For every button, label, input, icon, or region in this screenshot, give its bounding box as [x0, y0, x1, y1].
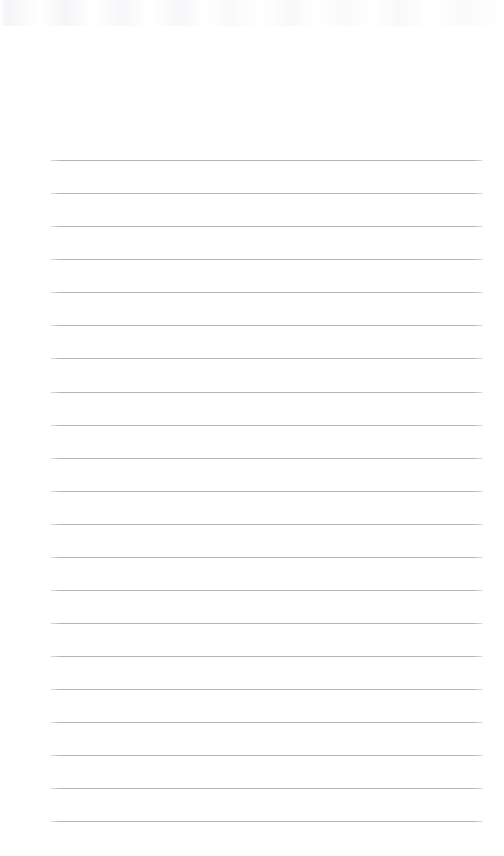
writing-area[interactable] [50, 160, 483, 822]
lined-paper-page [0, 0, 504, 856]
